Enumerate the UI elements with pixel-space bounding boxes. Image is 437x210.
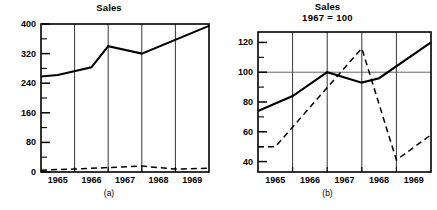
panel-b-plot-area: [218, 0, 437, 210]
chart-panel-a: Sales 080160240320400 196519661967196819…: [0, 0, 218, 210]
series-index-dashed: [258, 48, 431, 160]
two-panel-sales-figure: Sales 080160240320400 196519661967196819…: [0, 0, 437, 210]
panel-a-plot-area: [0, 0, 218, 210]
chart-panel-b: Sales 1967 = 100 406080100120 1965196619…: [218, 0, 437, 210]
series-index-solid: [258, 42, 431, 111]
panel-a-caption: (a): [0, 188, 218, 198]
plot-frame: [41, 24, 209, 172]
series-sales-solid: [41, 26, 209, 77]
panel-b-caption: (b): [218, 188, 437, 198]
plot-frame: [258, 32, 431, 172]
series-sales-dashed: [41, 166, 209, 170]
